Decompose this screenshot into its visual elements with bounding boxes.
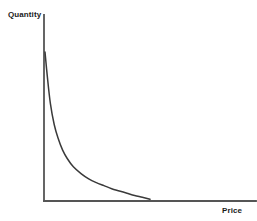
plot-area (0, 0, 257, 221)
demand-curve-figure: Quantity Price (0, 0, 257, 221)
demand-curve-line (45, 52, 150, 199)
